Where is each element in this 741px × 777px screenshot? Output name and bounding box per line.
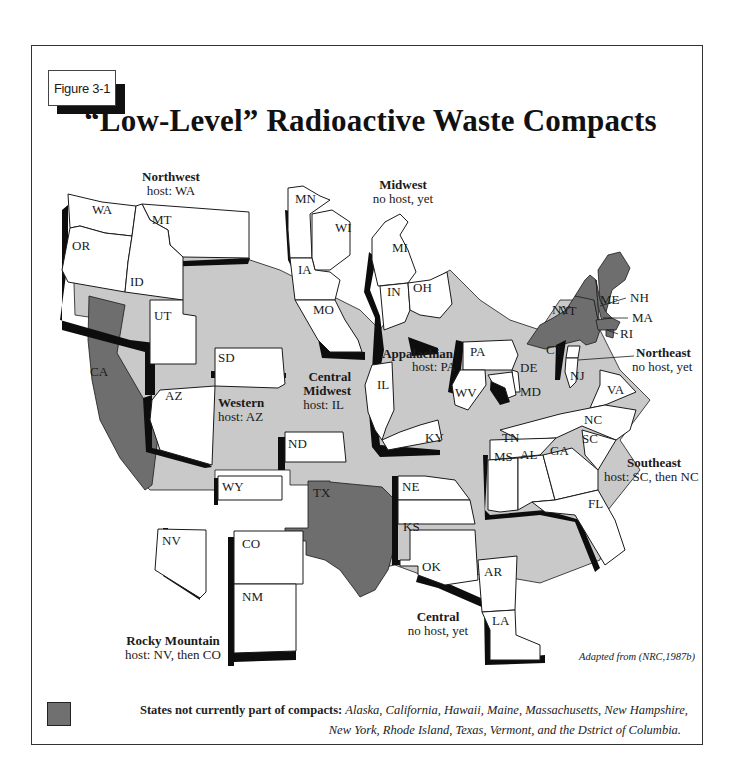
label-IN: IN xyxy=(387,284,401,299)
label-AZ: AZ xyxy=(165,388,182,403)
compact-name: Western xyxy=(218,395,265,410)
label-CT: CT xyxy=(546,342,563,357)
label-MI: MI xyxy=(392,240,408,255)
legend-list-2: New York, Rhode Island, Texas, Vermont, … xyxy=(329,723,681,737)
label-RI: RI xyxy=(620,326,633,341)
legend-line-1: States not currently part of compacts: A… xyxy=(95,700,681,720)
label-MA: MA xyxy=(632,310,654,325)
label-LA: LA xyxy=(492,613,510,628)
label-MS: MS xyxy=(494,449,513,464)
label-ND: ND xyxy=(288,436,307,451)
compact-name: Southeast xyxy=(627,455,682,470)
label-MN: MN xyxy=(295,191,317,206)
compact-northeast: Northeast no host, yet xyxy=(632,345,693,374)
compact-host: no host, yet xyxy=(373,191,434,206)
compact-western: Western host: AZ xyxy=(218,395,265,424)
state-CT xyxy=(566,346,580,358)
label-FL: FL xyxy=(588,496,603,511)
compact-name-line2: Midwest xyxy=(303,383,351,398)
label-DE: DE xyxy=(520,360,537,375)
label-NM: NM xyxy=(242,589,263,604)
compact-host: host: WA xyxy=(147,183,196,198)
label-CO: CO xyxy=(242,536,260,551)
label-KY: KY xyxy=(425,430,444,445)
label-OH: OH xyxy=(413,280,432,295)
label-NV: NV xyxy=(162,533,181,548)
compact-name: Northwest xyxy=(142,169,200,184)
compact-rocky-mountain: Rocky Mountain host: NV, then CO xyxy=(125,633,221,662)
compact-name: Rocky Mountain xyxy=(126,633,220,648)
compact-name: Central xyxy=(417,609,460,624)
state-OK xyxy=(400,530,478,585)
label-NH: NH xyxy=(630,290,649,305)
label-CA: CA xyxy=(90,364,109,379)
label-IA: IA xyxy=(298,262,312,277)
legend-label: States not currently part of compacts: xyxy=(140,703,342,717)
label-IL: IL xyxy=(377,377,389,392)
label-GA: GA xyxy=(550,443,569,458)
state-OH xyxy=(408,272,452,318)
compact-host: host: IL xyxy=(303,397,344,412)
compact-host: no host, yet xyxy=(408,623,469,638)
label-OK: OK xyxy=(422,559,441,574)
label-KS: KS xyxy=(403,519,420,534)
label-OR: OR xyxy=(72,238,90,253)
compact-name: Midwest xyxy=(379,177,427,192)
label-WA: WA xyxy=(92,202,113,217)
legend-list-1: Alaska, California, Hawaii, Maine, Massa… xyxy=(345,703,688,717)
state-MS xyxy=(488,458,518,512)
compact-host: host: NV, then CO xyxy=(125,647,221,662)
label-SD: SD xyxy=(218,350,235,365)
legend: States not currently part of compacts: A… xyxy=(95,700,681,740)
compact-northwest: Northwest host: WA xyxy=(142,169,200,198)
compact-midwest: Midwest no host, yet xyxy=(373,177,434,206)
label-VA: VA xyxy=(607,382,625,397)
label-AL: AL xyxy=(520,447,537,462)
state-LA xyxy=(482,610,540,660)
label-AR: AR xyxy=(484,564,502,579)
compact-central: Central no host, yet xyxy=(408,609,469,638)
state-WI xyxy=(312,210,350,270)
compact-name: Northeast xyxy=(636,345,692,360)
label-SC: SC xyxy=(582,431,598,446)
compact-host: host: SC, then NC xyxy=(604,469,699,484)
label-UT: UT xyxy=(154,308,171,323)
compact-host: host: AZ xyxy=(218,409,263,424)
legend-line-2: New York, Rhode Island, Texas, Vermont, … xyxy=(95,720,681,740)
label-WI: WI xyxy=(335,220,352,235)
compact-host: host: PA xyxy=(412,359,457,374)
compact-host: no host, yet xyxy=(632,359,693,374)
label-NE: NE xyxy=(402,479,419,494)
compact-name-line1: Central xyxy=(308,369,351,384)
source-note: Adapted from (NRC,1987b) xyxy=(579,651,695,662)
label-WY: WY xyxy=(222,479,244,494)
label-TN: TN xyxy=(502,430,520,445)
label-MD: MD xyxy=(520,384,541,399)
legend-swatch-not-in-compact xyxy=(47,702,71,726)
state-OR xyxy=(62,226,132,292)
label-NC: NC xyxy=(584,412,602,427)
state-MA xyxy=(596,318,620,330)
label-NY: NY xyxy=(552,302,571,317)
label-NJ: NJ xyxy=(570,368,584,383)
label-ID: ID xyxy=(130,274,144,289)
label-MT: MT xyxy=(152,212,172,227)
label-WV: WV xyxy=(455,385,477,400)
label-MO: MO xyxy=(313,302,334,317)
label-TX: TX xyxy=(313,485,331,500)
label-PA: PA xyxy=(470,344,486,359)
